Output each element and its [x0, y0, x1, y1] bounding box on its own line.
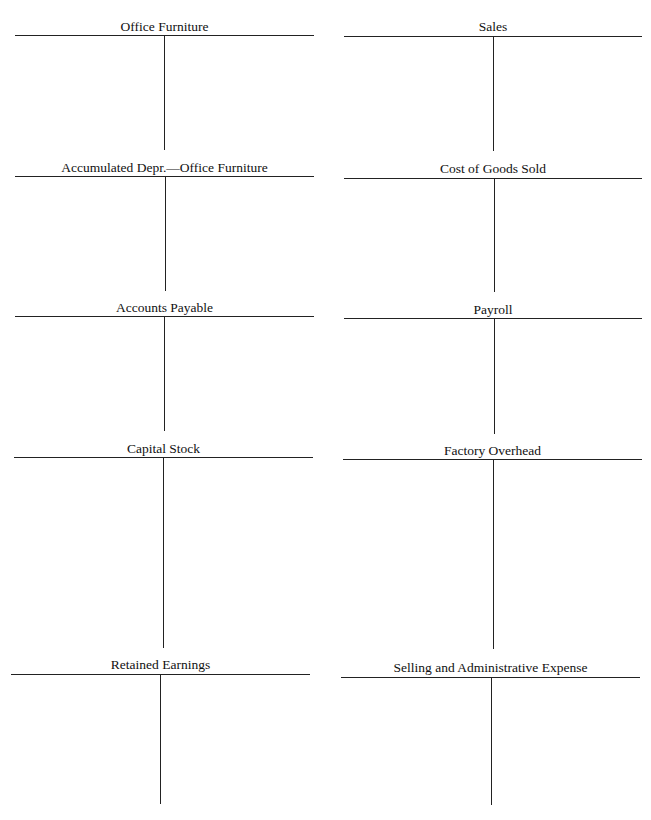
account-title: Sales: [344, 19, 642, 35]
t-account-capital-stock: Capital Stock: [14, 441, 313, 649]
account-header-line: [344, 318, 642, 319]
account-title: Factory Overhead: [343, 443, 642, 459]
account-header-line: [344, 178, 642, 179]
account-title: Selling and Administrative Expense: [341, 660, 640, 676]
t-account-payroll: Payroll: [344, 302, 642, 434]
t-account-accounts-payable: Accounts Payable: [15, 300, 314, 432]
account-title: Payroll: [344, 302, 642, 318]
account-divider-line: [164, 316, 165, 431]
account-divider-line: [164, 35, 165, 150]
account-divider-line: [163, 457, 164, 648]
account-divider-line: [491, 677, 492, 805]
t-account-cost-of-goods-sold: Cost of Goods Sold: [344, 161, 642, 293]
account-divider-line: [493, 459, 494, 649]
t-account-accumulated-depr-office-furniture: Accumulated Depr.—Office Furniture: [15, 160, 314, 292]
account-divider-line: [493, 36, 494, 151]
t-account-sales: Sales: [344, 19, 642, 152]
account-title: Capital Stock: [14, 441, 313, 457]
account-divider-line: [494, 178, 495, 292]
account-title: Accounts Payable: [15, 300, 314, 316]
t-account-office-furniture: Office Furniture: [15, 19, 314, 152]
account-divider-line: [494, 318, 495, 434]
t-account-factory-overhead: Factory Overhead: [343, 443, 642, 651]
account-divider-line: [160, 674, 161, 804]
account-title: Cost of Goods Sold: [344, 161, 642, 177]
account-title: Office Furniture: [15, 19, 314, 35]
account-title: Retained Earnings: [11, 657, 310, 673]
account-title: Accumulated Depr.—Office Furniture: [15, 160, 314, 176]
t-account-selling-and-administrative-expense: Selling and Administrative Expense: [341, 660, 640, 810]
account-divider-line: [165, 176, 166, 291]
t-account-retained-earnings: Retained Earnings: [11, 657, 310, 807]
